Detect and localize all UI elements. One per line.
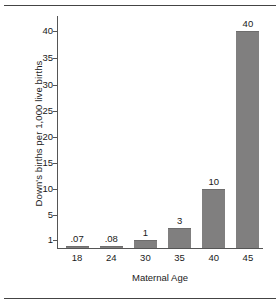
bar-value-label: 40 [228, 19, 268, 29]
bar [168, 228, 191, 249]
y-tick-label: 25 [33, 106, 53, 116]
bar [100, 246, 123, 248]
y-tick-mark [53, 111, 57, 112]
y-tick-mark [53, 58, 57, 59]
y-tick-mark [53, 215, 57, 216]
bar-value-label: 1 [125, 228, 165, 238]
y-tick-label: 20 [33, 132, 53, 142]
y-tick-label: 35 [33, 53, 53, 63]
bar [202, 189, 225, 248]
y-tick-mark [53, 137, 57, 138]
bar [66, 246, 89, 248]
x-axis-line [57, 248, 263, 249]
chart-figure: Down's births per 1,000 live births 1510… [0, 0, 280, 305]
bottom-divider-rule [4, 298, 276, 299]
bar-value-label: 3 [160, 216, 200, 226]
y-tick-label: 30 [33, 80, 53, 90]
y-tick-label: 15 [33, 158, 53, 168]
bar [134, 240, 157, 248]
y-tick-label: 10 [33, 184, 53, 194]
y-tick-mark [53, 31, 57, 32]
plot-area: .07.08131040 [58, 16, 263, 248]
y-tick-mark [53, 163, 57, 164]
y-tick-mark [53, 189, 57, 190]
x-tick-label: 45 [228, 253, 268, 263]
y-tick-mark [53, 85, 57, 86]
y-tick-label: 40 [33, 26, 53, 36]
y-tick-label: 5 [33, 210, 53, 220]
y-axis-tick-labels: 1510152025303540 [33, 0, 53, 249]
bar [236, 31, 259, 248]
y-tick-label: 1 [33, 235, 53, 245]
y-tick-mark [53, 240, 57, 241]
bar-value-label: 10 [194, 177, 234, 187]
x-axis-title: Maternal Age [57, 272, 263, 283]
